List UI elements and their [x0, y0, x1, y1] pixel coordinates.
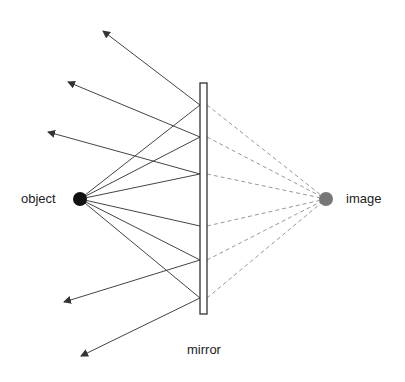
incident-rays [80, 105, 200, 298]
mirror-label: mirror [187, 343, 221, 356]
ray-diagram: object image mirror [0, 0, 405, 382]
reflected-rays [48, 31, 200, 356]
object-label: object [21, 192, 56, 205]
object-point [73, 192, 87, 206]
mirror [200, 83, 207, 314]
image-point [319, 192, 333, 206]
image-label: image [346, 192, 381, 205]
diagram-svg [0, 0, 405, 382]
virtual-rays [207, 105, 326, 298]
